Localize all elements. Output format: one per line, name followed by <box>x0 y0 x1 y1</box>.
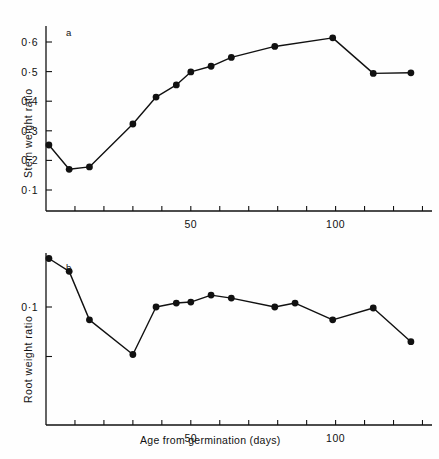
data-point <box>208 63 215 70</box>
y-axis-label-a: Stem weight ratio <box>22 88 34 178</box>
x-tick-label: 100 <box>326 218 345 230</box>
data-point <box>329 316 336 323</box>
data-point <box>66 166 73 173</box>
data-series-b <box>49 258 411 354</box>
data-point <box>329 34 336 41</box>
data-point <box>228 54 235 61</box>
data-point <box>271 43 278 50</box>
data-point <box>153 94 160 101</box>
y-tick-label: 0·1 <box>21 301 38 313</box>
data-point <box>46 255 53 262</box>
x-tick-label: 50 <box>184 218 197 230</box>
data-point <box>408 338 415 345</box>
figure-container: 0·10·20·30·40·50·650100 a Stem weight ra… <box>0 0 439 459</box>
y-axis-label-b: Root weight ratio <box>22 316 34 403</box>
y-tick-label: 0·1 <box>21 184 38 196</box>
data-point <box>129 121 136 128</box>
panel-letter-b: b <box>66 262 71 273</box>
chart-panel-b: 0·150100 b Root weight ratio Age from ge… <box>0 235 439 459</box>
axis-ticks-b <box>46 258 422 426</box>
data-point <box>187 299 194 306</box>
data-point <box>173 82 180 89</box>
data-point <box>86 316 93 323</box>
data-point <box>46 142 53 149</box>
axis-tick-labels-b: 0·150100 <box>21 301 345 444</box>
data-point <box>408 69 415 76</box>
data-points-a <box>46 34 415 172</box>
axis-tick-labels-a: 0·10·20·30·40·50·650100 <box>21 36 345 230</box>
data-point <box>173 300 180 307</box>
axes-a <box>46 26 432 211</box>
data-point <box>187 69 194 76</box>
data-point <box>129 351 136 358</box>
stem-weight-ratio-plot: 0·10·20·30·40·50·650100 a <box>0 0 439 240</box>
data-point <box>292 300 299 307</box>
data-point <box>86 164 93 171</box>
data-point <box>370 70 377 77</box>
x-axis-label: Age from germination (days) <box>140 434 281 446</box>
data-points-b <box>46 255 415 358</box>
data-point <box>228 295 235 302</box>
root-weight-ratio-plot: 0·150100 b <box>0 235 439 459</box>
axes-b <box>46 253 432 425</box>
y-tick-label: 0·5 <box>21 66 38 78</box>
data-point <box>370 305 377 312</box>
panel-letter-a: a <box>66 27 72 38</box>
data-point <box>153 304 160 311</box>
data-point <box>208 292 215 299</box>
chart-panel-a: 0·10·20·30·40·50·650100 a Stem weight ra… <box>0 0 439 240</box>
y-tick-label: 0·6 <box>21 36 38 48</box>
data-point <box>271 304 278 311</box>
x-tick-label: 100 <box>326 432 345 444</box>
